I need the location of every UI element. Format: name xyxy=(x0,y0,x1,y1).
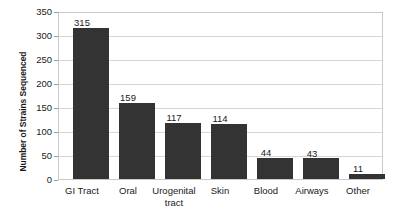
y-tick-label-150: 150 xyxy=(20,103,52,113)
bar-value-other: 11 xyxy=(330,163,386,174)
bar-other xyxy=(349,174,385,179)
y-tick-label-100: 100 xyxy=(20,127,52,137)
y-tick-label-50: 50 xyxy=(20,151,52,161)
bar-gi-tract xyxy=(73,28,109,179)
y-tick-label-300: 300 xyxy=(20,31,52,41)
x-label-urogenital-line2: tract xyxy=(165,197,183,208)
bar-chart: Number of Strains Sequenced 350 300 250 … xyxy=(0,0,404,223)
bar-value-oral: 159 xyxy=(100,92,156,103)
x-label-other: Other xyxy=(328,185,388,197)
y-tick-label-350: 350 xyxy=(20,7,52,17)
y-tick-label-200: 200 xyxy=(20,79,52,89)
bar-value-skin: 114 xyxy=(192,113,248,124)
bar-urogenital xyxy=(165,123,201,179)
y-tick-label-250: 250 xyxy=(20,55,52,65)
bar-value-gi-tract: 315 xyxy=(54,17,110,28)
y-tick-label-0: 0 xyxy=(20,175,52,185)
bar-blood xyxy=(257,158,293,179)
bar-value-airways: 43 xyxy=(284,148,340,159)
y-tick-mark-0 xyxy=(54,180,58,181)
